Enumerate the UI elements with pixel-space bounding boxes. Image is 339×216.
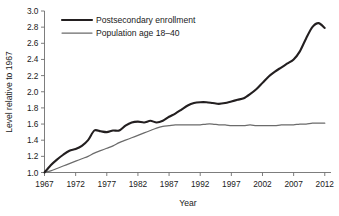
x-axis-ticks: 1967197219771982198719921997200220072012 <box>35 173 334 189</box>
series-line-enrollment <box>45 23 325 172</box>
chart-figure: 1.01.21.41.61.82.02.22.42.62.83.0 196719… <box>0 0 339 216</box>
legend-label-population: Population age 18–40 <box>96 28 180 38</box>
y-tick-label: 2.6 <box>27 38 39 48</box>
y-tick-label: 2.0 <box>27 87 39 97</box>
x-tick-label: 1967 <box>35 179 54 189</box>
y-tick-label: 1.2 <box>27 151 39 161</box>
legend-label-enrollment: Postsecondary enrollment <box>96 15 196 25</box>
series-group <box>45 23 325 172</box>
y-tick-label: 1.6 <box>27 119 39 129</box>
y-axis-title: Level relative to 1967 <box>4 51 14 133</box>
y-axis: 1.01.21.41.61.82.02.22.42.62.83.0 <box>27 6 45 178</box>
y-tick-label: 1.4 <box>27 135 39 145</box>
y-tick-label: 1.8 <box>27 103 39 113</box>
x-axis-title: Year <box>179 198 197 208</box>
series-line-population <box>45 123 325 172</box>
x-tick-label: 2012 <box>316 179 335 189</box>
y-tick-label: 2.4 <box>27 54 39 64</box>
y-axis-ticks: 1.01.21.41.61.82.02.22.42.62.83.0 <box>27 6 45 178</box>
legend: Postsecondary enrollment Population age … <box>62 15 196 38</box>
x-tick-label: 1997 <box>222 179 241 189</box>
x-tick-label: 1987 <box>160 179 179 189</box>
x-tick-label: 1972 <box>66 179 85 189</box>
x-tick-label: 1982 <box>129 179 148 189</box>
y-tick-label: 2.8 <box>27 22 39 32</box>
y-tick-label: 3.0 <box>27 6 39 16</box>
x-tick-label: 1992 <box>191 179 210 189</box>
x-tick-label: 2007 <box>284 179 303 189</box>
chart-canvas: 1.01.21.41.61.82.02.22.42.62.83.0 196719… <box>0 0 339 216</box>
x-axis: 1967197219771982198719921997200220072012 <box>35 173 334 189</box>
y-tick-label: 2.2 <box>27 71 39 81</box>
x-tick-label: 2002 <box>253 179 272 189</box>
y-tick-label: 1.0 <box>27 168 39 178</box>
x-tick-label: 1977 <box>98 179 117 189</box>
